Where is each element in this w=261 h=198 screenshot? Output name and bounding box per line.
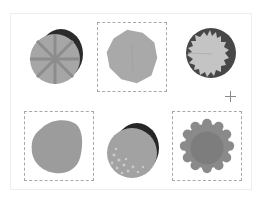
irregular-blob-icon [98,23,166,91]
speckled-disc-icon [98,115,168,185]
tile-sliced-disc[interactable] [22,22,92,92]
tile-scalloped-disc[interactable] [172,111,242,181]
tile-speckled-disc[interactable] [98,115,168,185]
rounded-blob-icon [25,112,93,180]
scalloped-disc-icon [173,112,241,180]
tile-sunburst-disc[interactable] [174,22,244,92]
sunburst-disc-icon [174,22,244,92]
tile-irregular-blob[interactable] [97,22,167,92]
tile-rounded-blob[interactable] [24,111,94,181]
crosshair-cursor-icon [225,91,236,102]
sliced-disc-icon [22,22,92,92]
